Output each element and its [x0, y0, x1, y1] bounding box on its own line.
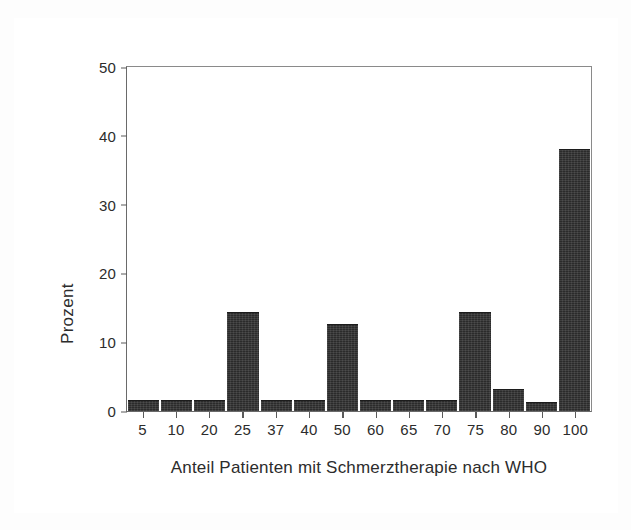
bar — [493, 389, 524, 411]
bar-slot — [226, 67, 259, 411]
bar-slot — [260, 67, 293, 411]
x-tickmark — [509, 412, 510, 418]
x-tick-slot: 40 — [292, 412, 325, 442]
x-tickmark — [276, 412, 277, 418]
x-tick-slot: 70 — [426, 412, 459, 442]
bar-slot — [525, 67, 558, 411]
x-tick-slot: 60 — [359, 412, 392, 442]
bar — [227, 312, 258, 411]
x-tick-slot: 90 — [525, 412, 558, 442]
y-tick-label: 40 — [99, 127, 127, 144]
x-tick-slot: 37 — [259, 412, 292, 442]
y-tick-label: 10 — [99, 334, 127, 351]
x-tick-label: 75 — [459, 421, 492, 438]
x-tick-label: 5 — [126, 421, 159, 438]
x-tick-label: 100 — [559, 421, 592, 438]
bar-slot — [392, 67, 425, 411]
bar-slot — [193, 67, 226, 411]
x-tick-slot: 50 — [326, 412, 359, 442]
bar — [161, 400, 192, 411]
figure-canvas: Prozent 01020304050 51020253740506065707… — [0, 0, 631, 530]
bar — [393, 400, 424, 411]
bar-slot — [359, 67, 392, 411]
bar-slot — [425, 67, 458, 411]
y-tick-label: 30 — [99, 196, 127, 213]
x-tick-slot: 10 — [159, 412, 192, 442]
plot-area: 01020304050 — [126, 66, 592, 412]
bar-slot — [127, 67, 160, 411]
bar-slot — [160, 67, 193, 411]
x-tickmark — [376, 412, 377, 418]
x-tick-slot: 80 — [492, 412, 525, 442]
y-tick-label: 20 — [99, 265, 127, 282]
y-tick-label: 0 — [107, 403, 127, 420]
x-tickmark — [309, 412, 310, 418]
x-tick-label: 40 — [292, 421, 325, 438]
x-tick-label: 25 — [226, 421, 259, 438]
figure-outer-frame: Prozent 01020304050 51020253740506065707… — [14, 18, 618, 513]
bar-slot — [458, 67, 491, 411]
x-tick-label: 80 — [492, 421, 525, 438]
x-tick-label: 20 — [193, 421, 226, 438]
x-tickmark — [442, 412, 443, 418]
x-tickmark — [575, 412, 576, 418]
x-tickmark — [542, 412, 543, 418]
x-tick-label: 90 — [525, 421, 558, 438]
bar — [526, 402, 557, 411]
x-tickmark — [143, 412, 144, 418]
x-tickmark — [475, 412, 476, 418]
x-tick-slot: 5 — [126, 412, 159, 442]
x-axis-title: Anteil Patienten mit Schmerztherapie nac… — [126, 458, 592, 478]
bar — [360, 400, 391, 411]
x-tickmark — [209, 412, 210, 418]
bar — [426, 400, 457, 411]
x-axis-ticks: 5102025374050606570758090100 — [126, 412, 592, 442]
bar — [459, 312, 490, 411]
x-tickmark — [409, 412, 410, 418]
bar-slot — [558, 67, 591, 411]
x-tick-label: 10 — [159, 421, 192, 438]
x-tick-slot: 75 — [459, 412, 492, 442]
bar — [194, 400, 225, 411]
x-tick-label: 65 — [392, 421, 425, 438]
x-tick-label: 37 — [259, 421, 292, 438]
x-tickmark — [342, 412, 343, 418]
bar-slot — [293, 67, 326, 411]
bar — [559, 149, 590, 411]
bar — [128, 400, 159, 411]
x-tick-label: 60 — [359, 421, 392, 438]
y-tick-label: 50 — [99, 59, 127, 76]
bar-slot — [326, 67, 359, 411]
x-tick-slot: 65 — [392, 412, 425, 442]
bar — [327, 324, 358, 411]
x-tick-slot: 100 — [559, 412, 592, 442]
bar-slot — [492, 67, 525, 411]
bar — [294, 400, 325, 411]
x-tickmark — [242, 412, 243, 418]
x-tickmark — [176, 412, 177, 418]
y-axis-title: Prozent — [58, 283, 78, 344]
x-tick-label: 70 — [426, 421, 459, 438]
bar-series — [127, 67, 591, 411]
x-tick-label: 50 — [326, 421, 359, 438]
x-tick-slot: 20 — [193, 412, 226, 442]
x-tick-slot: 25 — [226, 412, 259, 442]
bar — [261, 400, 292, 411]
